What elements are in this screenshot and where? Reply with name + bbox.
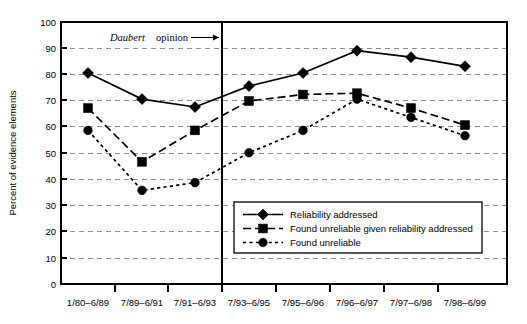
chart-container: 100 90 80 70 60 50 40 30 20 10 0 Percent… bbox=[0, 0, 527, 324]
data-point-square bbox=[461, 121, 470, 130]
data-point-circle bbox=[84, 126, 93, 135]
legend-item-reliability-addressed: Reliability addressed bbox=[243, 209, 378, 220]
y-tick-label: 20 bbox=[45, 226, 56, 237]
x-tick-label: 7/93–6/95 bbox=[228, 297, 270, 308]
data-point-circle bbox=[138, 186, 147, 195]
data-point-diamond bbox=[406, 52, 417, 63]
line-chart: 100 90 80 70 60 50 40 30 20 10 0 Percent… bbox=[0, 0, 527, 324]
y-tick-label: 50 bbox=[45, 148, 56, 159]
x-tick-label: 7/89–6/91 bbox=[121, 297, 163, 308]
x-tick-label: 7/97–6/98 bbox=[390, 297, 432, 308]
data-point-diamond bbox=[83, 68, 94, 79]
data-point-square bbox=[191, 126, 200, 135]
data-point-square bbox=[299, 90, 308, 99]
data-point-diamond bbox=[352, 45, 363, 56]
y-tick-label: 30 bbox=[45, 200, 56, 211]
x-axis-labels: 1/80–6/89 7/89–6/91 7/91–6/93 7/93–6/95 … bbox=[67, 297, 486, 308]
legend-marker-circle bbox=[259, 238, 268, 247]
y-tick-label: 80 bbox=[45, 69, 56, 80]
data-point-circle bbox=[461, 131, 470, 140]
series-reliability-addressed bbox=[83, 45, 471, 112]
x-tick-label: 7/95–6/96 bbox=[282, 297, 324, 308]
x-tick-label: 7/91–6/93 bbox=[174, 297, 216, 308]
annotation-roman-text: opinion bbox=[156, 32, 189, 43]
y-tick-label: 100 bbox=[40, 17, 56, 28]
data-point-circle bbox=[407, 113, 416, 122]
y-tick-label: 40 bbox=[45, 174, 56, 185]
legend-label: Found unreliable given reliability addre… bbox=[290, 223, 473, 234]
y-axis-title: Percent of evidence elements bbox=[7, 90, 18, 215]
y-tick-label: 90 bbox=[45, 43, 56, 54]
data-point-square bbox=[245, 97, 254, 106]
data-point-square bbox=[138, 157, 147, 166]
data-point-diamond bbox=[137, 94, 148, 105]
y-tick-label: 10 bbox=[45, 253, 56, 264]
data-point-diamond bbox=[460, 61, 471, 72]
x-tick-label: 7/96–6/97 bbox=[336, 297, 378, 308]
y-tick-label: 60 bbox=[45, 121, 56, 132]
data-point-circle bbox=[245, 148, 254, 157]
x-tick-label: 7/98–6/99 bbox=[444, 297, 486, 308]
annotation-italic-text: Daubert bbox=[109, 32, 146, 43]
data-point-diamond bbox=[298, 68, 309, 79]
y-tick-label: 70 bbox=[45, 95, 56, 106]
x-tick-label: 1/80–6/89 bbox=[67, 297, 109, 308]
data-point-diamond bbox=[190, 102, 201, 113]
data-point-circle bbox=[191, 178, 200, 187]
right-arrow-icon bbox=[191, 35, 219, 41]
data-point-square bbox=[407, 104, 416, 113]
daubert-opinion-annotation: Daubert opinion bbox=[109, 32, 219, 43]
chart-legend: Reliability addressed Found unreliable g… bbox=[234, 202, 482, 253]
y-tick-label: 0 bbox=[51, 279, 56, 290]
y-axis-labels: 100 90 80 70 60 50 40 30 20 10 0 bbox=[40, 17, 56, 290]
y-axis-ticks bbox=[61, 22, 67, 284]
data-point-diamond bbox=[244, 81, 255, 92]
data-point-circle bbox=[299, 126, 308, 135]
data-point-square bbox=[353, 89, 362, 98]
legend-marker-square bbox=[259, 224, 268, 233]
x-axis-ticks bbox=[115, 284, 438, 292]
data-point-square bbox=[84, 104, 93, 113]
legend-label: Reliability addressed bbox=[290, 209, 378, 220]
legend-label: Found unreliable bbox=[290, 237, 361, 248]
